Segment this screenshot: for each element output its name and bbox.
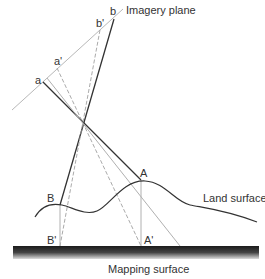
label-land-surface: Land surface: [203, 192, 265, 204]
label-imagery-plane: Imagery plane: [126, 4, 196, 16]
imagery-plane-line: [12, 9, 123, 110]
label-point-B-prime: B': [47, 234, 56, 246]
label-point-a: a: [35, 74, 42, 86]
ray-a-prime-to-A-prime: [57, 68, 141, 246]
label-point-a-prime: a': [54, 55, 62, 67]
relief-displacement-diagram: Imagery plane b b' a' a A B Land surface…: [0, 0, 265, 279]
label-point-b: b: [110, 5, 116, 17]
label-mapping-surface: Mapping surface: [108, 263, 189, 275]
label-point-B: B: [47, 192, 54, 204]
label-point-b-prime: b': [96, 17, 104, 29]
label-point-A-prime: A': [144, 234, 153, 246]
label-point-A: A: [140, 167, 148, 179]
ray-light-a-prime: [47, 78, 180, 246]
ray-b-to-B: [60, 19, 114, 205]
mapping-surface-bar: [13, 246, 259, 259]
